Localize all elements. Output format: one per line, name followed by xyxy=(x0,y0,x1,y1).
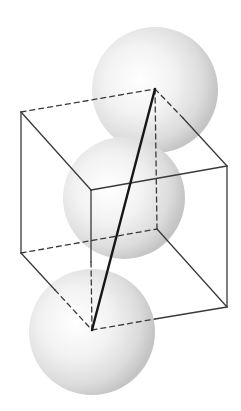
edge-top-left xyxy=(21,112,91,190)
bcc-cube-diagram xyxy=(0,0,241,411)
edge-bottom-front xyxy=(155,307,227,319)
atom-bottom-sphere xyxy=(29,269,155,395)
edge-bottom-right xyxy=(157,229,227,307)
edge-bottom-left xyxy=(21,253,55,290)
